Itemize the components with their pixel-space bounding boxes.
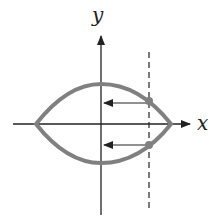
lower-intersection-point: [145, 141, 153, 149]
diagram-canvas: y x: [0, 0, 222, 219]
y-axis-label: y: [91, 3, 104, 27]
x-axis-label: x: [197, 111, 208, 135]
diagram-svg: y x: [0, 0, 222, 219]
upper-intersection-point: [145, 97, 153, 105]
